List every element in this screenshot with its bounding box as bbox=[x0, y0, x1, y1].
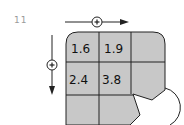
arrowhead-down-icon bbox=[49, 86, 55, 95]
cell-r2c2: 3.8 bbox=[102, 73, 121, 87]
cell-r1c2: 1.9 bbox=[104, 42, 123, 56]
arrowhead-right-icon bbox=[120, 19, 129, 25]
chocolate-grid: 1.6 1.9 2.4 3.8 bbox=[66, 32, 180, 125]
bite-outline bbox=[165, 88, 180, 125]
cell-r2c1: 2.4 bbox=[69, 73, 88, 87]
horizontal-add-arrow bbox=[65, 17, 129, 27]
vertical-add-arrow bbox=[47, 35, 57, 95]
addition-grid-diagram: 1.6 1.9 2.4 3.8 bbox=[0, 0, 184, 125]
cell-r1c1: 1.6 bbox=[71, 42, 90, 56]
